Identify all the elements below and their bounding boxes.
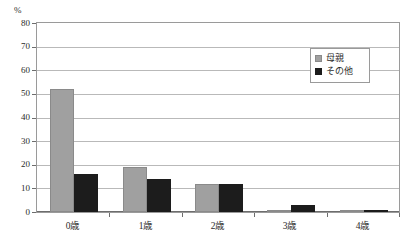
y-tick-mark-30	[32, 141, 36, 142]
y-tick-label-70: 70	[4, 42, 30, 51]
legend-item-0: 母親	[315, 52, 365, 65]
bar	[74, 174, 98, 212]
x-tick-mark-2	[254, 213, 255, 217]
legend-swatch-icon-other	[315, 68, 322, 75]
bar-group	[38, 23, 110, 212]
y-tick-mark-60	[32, 70, 36, 71]
x-tick-mark-1	[182, 213, 183, 217]
y-tick-mark-50	[32, 94, 36, 95]
legend-item-1: その他	[315, 65, 365, 78]
y-tick-mark-10	[32, 188, 36, 189]
y-tick-mark-40	[32, 118, 36, 119]
y-tick-label-20: 20	[4, 160, 30, 169]
y-tick-label-40: 40	[4, 113, 30, 122]
y-tick-mark-20	[32, 165, 36, 166]
x-tick-mark-3	[327, 213, 328, 217]
bar	[147, 179, 171, 212]
bar	[364, 210, 388, 212]
y-tick-label-10: 10	[4, 184, 30, 193]
y-tick-label-30: 30	[4, 137, 30, 146]
y-tick-label-80: 80	[4, 19, 30, 28]
legend-label-other: その他	[326, 67, 353, 76]
bar	[267, 210, 291, 212]
legend-swatch-icon-mother	[315, 55, 322, 62]
bar-group	[110, 23, 182, 212]
bar-group	[183, 23, 255, 212]
legend: 母親 その他	[310, 48, 370, 83]
y-tick-label-0: 0	[4, 208, 30, 217]
x-tick-label-1: 1歳	[116, 221, 176, 232]
bar	[219, 184, 243, 212]
x-tick-mark-0	[109, 213, 110, 217]
bar	[195, 184, 219, 212]
x-tick-mark-4	[399, 213, 400, 217]
x-tick-label-4: 4歳	[333, 221, 393, 232]
x-tick-label-2: 2歳	[188, 221, 248, 232]
y-tick-mark-0	[32, 212, 36, 213]
bar	[50, 89, 74, 212]
y-axis-unit-label: %	[14, 6, 22, 15]
y-tick-label-50: 50	[4, 89, 30, 98]
y-tick-mark-70	[32, 47, 36, 48]
x-tick-label-3: 3歳	[260, 221, 320, 232]
bar	[340, 210, 364, 212]
x-tick-label-0: 0歳	[43, 221, 103, 232]
bar-chart: % 01020304050607080 0歳1歳2歳3歳4歳 母親 その他	[0, 0, 406, 244]
legend-label-mother: 母親	[326, 54, 344, 63]
y-tick-mark-80	[32, 23, 36, 24]
bar	[123, 167, 147, 212]
y-tick-label-60: 60	[4, 66, 30, 75]
bar	[291, 205, 315, 212]
